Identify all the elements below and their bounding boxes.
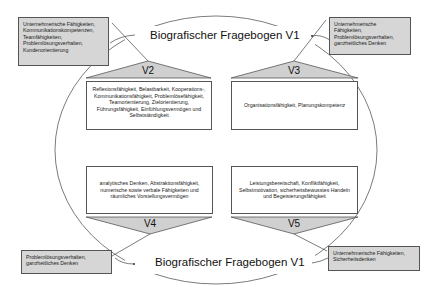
v4-label: V4 [135,218,165,229]
v2-competencies-box: Reflexionsfähigkeit, Belastbarkeit, Koop… [86,81,212,130]
v3-label: V3 [279,65,309,76]
corner-box-bottom-right: Unternehmerische Fähigkeiten, Sicherheit… [328,246,420,271]
title-top: Biografischer Fragebogen V1 [150,29,300,41]
v5-label: V5 [279,218,309,229]
v2-label: V2 [133,65,163,76]
v4-competencies-box: analytisches Denken, Abstraktionsfähigke… [86,166,213,214]
corner-box-top-left: Unternehmerische Fähigkeiten, Kommunikat… [18,17,109,66]
corner-box-bottom-left: Problemlösungsverhalten, ganzheitliches … [21,250,112,274]
v3-competencies-box: Organisationsfähigkeit, Planungskompeten… [231,81,358,130]
v5-competencies-box: Leistungsbereitschaft, Konfliktfähigkeit… [231,166,358,214]
title-bottom: Biografischer Fragebogen V1 [155,256,305,268]
corner-box-top-right: Unternehmerische Fähigkeiten, Problemlös… [329,17,411,55]
